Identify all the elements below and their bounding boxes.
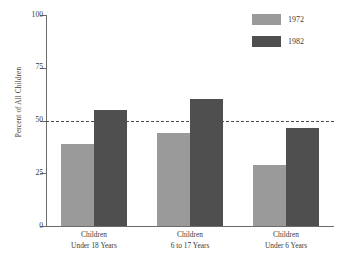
category-label-line: Under 18 Years <box>46 241 142 252</box>
bar-1972-group-1 <box>61 144 94 226</box>
category-label-line: Under 6 Years <box>238 241 334 252</box>
y-tick-label: 50 <box>35 115 43 124</box>
legend-swatch-1982 <box>252 36 281 47</box>
legend-swatch-1972 <box>252 14 281 25</box>
y-tick-label: 75 <box>35 62 43 71</box>
category-label-1: ChildrenUnder 18 Years <box>46 230 142 251</box>
category-label-line: Children <box>46 230 142 241</box>
category-label-line: 6 to 17 Years <box>142 241 238 252</box>
category-label-line: Children <box>142 230 238 241</box>
bar-1982-group-1 <box>94 110 127 226</box>
y-tick-label: 0 <box>39 221 43 230</box>
category-label-2: Children6 to 17 Years <box>142 230 238 251</box>
category-label-3: ChildrenUnder 6 Years <box>238 230 334 251</box>
bar-chart: Percent of All Children 0255075100 Child… <box>0 0 339 256</box>
legend-label-1972: 1972 <box>288 15 304 24</box>
x-axis-category-labels: ChildrenUnder 18 YearsChildren6 to 17 Ye… <box>46 230 334 256</box>
bar-1972-group-3 <box>253 165 286 226</box>
legend-item-1972[interactable]: 1972 <box>252 13 336 26</box>
bar-1982-group-3 <box>286 128 319 226</box>
y-tick-label: 25 <box>35 168 43 177</box>
y-tick-label: 100 <box>32 10 43 19</box>
bar-1972-group-2 <box>157 133 190 226</box>
bar-1982-group-2 <box>190 99 223 226</box>
legend: 19721982 <box>252 13 336 57</box>
legend-label-1982: 1982 <box>288 37 304 46</box>
category-label-line: Children <box>238 230 334 241</box>
legend-item-1982[interactable]: 1982 <box>252 35 336 48</box>
y-axis-title: Percent of All Children <box>15 37 23 167</box>
